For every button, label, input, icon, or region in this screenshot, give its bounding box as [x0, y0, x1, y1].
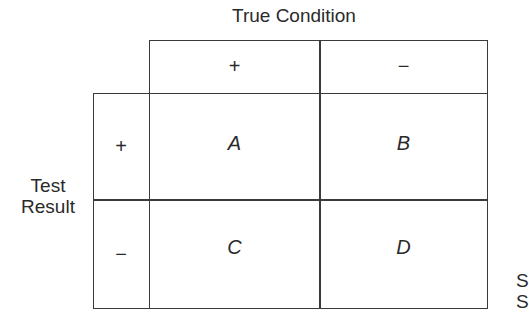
- cell-a-true-positive: A: [149, 93, 320, 193]
- column-title: True Condition: [232, 5, 356, 27]
- cropped-text-fragment: S S: [516, 270, 529, 312]
- row-header-negative: −: [93, 200, 149, 308]
- fragment-line-1: S: [516, 270, 529, 291]
- column-header-negative: −: [320, 40, 487, 93]
- fragment-line-2: S: [516, 291, 529, 312]
- column-header-positive: +: [149, 40, 320, 93]
- row-title-line-2: Result: [18, 196, 78, 217]
- row-title-line-1: Test: [18, 175, 78, 196]
- cell-c-false-negative: C: [149, 200, 320, 295]
- row-title: Test Result: [18, 175, 78, 217]
- cell-d-true-negative: D: [320, 200, 487, 295]
- cell-b-false-positive: B: [320, 93, 487, 193]
- row-header-positive: +: [93, 93, 149, 200]
